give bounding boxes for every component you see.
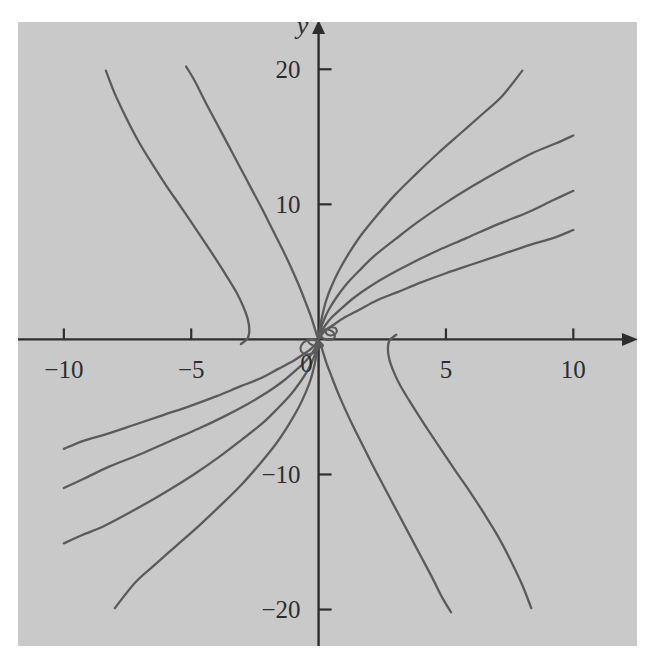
y-axis-name: y [297,22,309,39]
y-axis-arrowhead [312,22,325,34]
x-tick-label-minus-10: −10 [44,357,83,382]
y-tick-label-10: 10 [276,192,301,217]
x-tick-label-10: 10 [561,357,586,382]
x-tick-label-minus-5: −5 [178,357,205,382]
origin-label: 0 [300,351,313,376]
y-tick-label-minus-10: −10 [261,462,300,487]
plot-area: 20 10 −10 −20 −10 −5 5 10 0 x y [18,22,637,646]
curve-branch-steep-right-down [320,342,451,612]
y-tick-label-minus-20: −20 [261,597,300,622]
curve-branch-2-upper-right [319,135,573,336]
curve-branch-1-upper-right [319,71,522,335]
figure-container: 20 10 −10 −20 −10 −5 5 10 0 x y [0,0,654,663]
curve-branch-3-upper-right [319,191,573,338]
curve-branch-fold-right [388,335,531,609]
curve-branch-fold-left [106,71,249,345]
y-tick-label-20: 20 [276,57,301,82]
x-axis-arrowhead [622,333,637,346]
curve-plot-svg [18,22,637,646]
x-tick-label-5: 5 [440,357,453,382]
